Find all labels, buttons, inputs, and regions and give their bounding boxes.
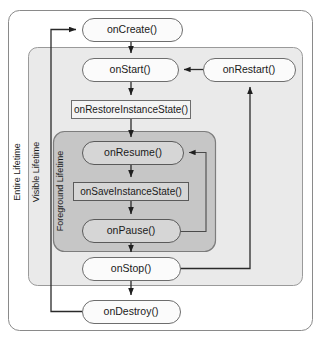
node-label-onrestart: onRestart(): [223, 63, 276, 75]
node-label-ondestroy: onDestroy(): [104, 305, 159, 317]
node-label-oncreate: onCreate(): [107, 23, 157, 35]
node-label-onstop: onStop(): [111, 262, 151, 274]
lane-label-foreground-lifetime: Foreground Lifetime: [55, 151, 65, 232]
lane-label-entire-lifetime: Entire Lifetime: [12, 143, 22, 201]
node-label-onrestoreinstancestate: onRestoreInstanceState(): [74, 104, 188, 115]
node-label-onresume: onResume(): [104, 146, 162, 158]
diagram-canvas: Entire Lifetime Visible Lifetime Foregro…: [0, 0, 325, 341]
activity-lifecycle-diagram: Entire Lifetime Visible Lifetime Foregro…: [0, 0, 325, 341]
node-label-onpause: onPause(): [107, 224, 155, 236]
node-label-onsaveinstancestate: onSaveInstanceState(): [80, 186, 182, 197]
lane-label-visible-lifetime: Visible Lifetime: [31, 142, 41, 202]
node-label-onstart: onStart(): [110, 63, 151, 75]
